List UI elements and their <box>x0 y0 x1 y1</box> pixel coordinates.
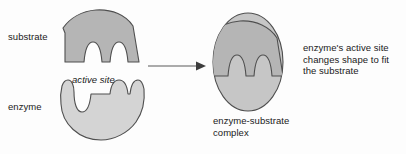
substrate-shape <box>63 10 139 62</box>
enzyme-shape <box>61 80 145 140</box>
label-enzyme-substrate-complex: enzyme-substrate complex <box>213 115 289 138</box>
process-arrow <box>148 62 206 71</box>
label-active-site: active site <box>72 74 115 86</box>
label-substrate: substrate <box>8 31 48 43</box>
enzyme-diagram: substrate enzyme active site enzyme-subs… <box>0 0 406 154</box>
enzyme-substrate-complex <box>207 13 283 111</box>
label-enzyme: enzyme <box>8 101 42 113</box>
diagram-artwork <box>0 0 406 154</box>
label-induced-fit-description: enzyme's active site changes shape to fi… <box>303 42 389 77</box>
